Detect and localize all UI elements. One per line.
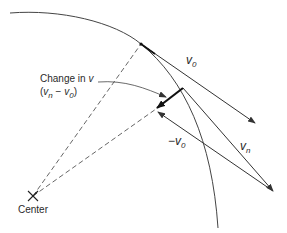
vn-vector <box>183 88 273 191</box>
neg-v0-vector <box>158 112 273 191</box>
label-vn: vn <box>240 140 250 155</box>
vn-sub: n <box>246 146 250 155</box>
label-leader-curve <box>98 82 166 97</box>
label-neg-v0: −v0 <box>168 135 185 150</box>
circular-path-arc <box>10 12 218 228</box>
neg-v0-prefix: − <box>168 134 175 148</box>
label-change-formula: (vn − v0) <box>40 87 77 100</box>
v0-vector <box>141 44 255 123</box>
delta-v-vector <box>157 88 183 108</box>
paren-close: ) <box>74 86 77 97</box>
diagram-canvas <box>0 0 287 233</box>
label-change-in-v: Change in v <box>40 74 93 84</box>
change-text: Change in <box>40 73 88 84</box>
radius-line-1 <box>33 44 141 196</box>
tangent-segment <box>141 44 155 54</box>
formula-minus: − <box>53 86 64 97</box>
neg-v0-sub: 0 <box>181 141 185 150</box>
radius-line-2 <box>33 109 156 196</box>
center-cross-icon <box>28 191 38 201</box>
label-v0: v0 <box>186 54 196 69</box>
v0-sub: 0 <box>192 60 196 69</box>
label-center: Center <box>18 205 48 215</box>
change-var: v <box>88 73 93 84</box>
